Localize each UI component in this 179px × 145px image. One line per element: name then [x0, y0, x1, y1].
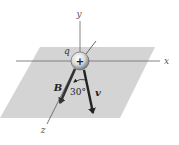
v-vector-label: v	[95, 87, 101, 98]
angle-label: 30°	[70, 87, 86, 97]
x-axis-label: x	[164, 56, 169, 66]
z-axis-label: z	[40, 125, 46, 135]
b-vector-label: B	[53, 82, 62, 93]
charge-label: q	[64, 46, 70, 56]
plus-sign: +	[76, 56, 84, 67]
diagram-canvas: + y x z q B v 30°	[0, 0, 179, 145]
y-axis-label: y	[75, 9, 82, 19]
